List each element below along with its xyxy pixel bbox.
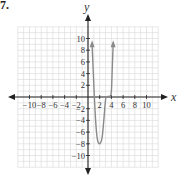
y-axis-down-arrow-icon (85, 168, 91, 175)
y-axis-up-arrow-icon (85, 14, 91, 21)
x-tick-label: 10 (142, 100, 151, 110)
y-tick-label: 10 (77, 34, 86, 44)
y-tick-label: 2 (81, 80, 85, 90)
y-tick-label: 6 (81, 57, 85, 67)
x-tick-label: −10 (23, 100, 36, 110)
x-tick-label: 8 (133, 100, 137, 110)
x-axis-right-arrow-icon (161, 94, 168, 100)
x-axis-left-arrow-icon (8, 94, 15, 100)
polynomial-graph: xy −10−8−6−4−2246810108642−2−4−6−8−10 (0, 0, 178, 176)
x-tick-label: 2 (98, 100, 102, 110)
y-tick-label: −2 (76, 104, 85, 114)
axes: xy (8, 0, 177, 175)
x-tick-label: 6 (121, 100, 125, 110)
polynomial-curve (92, 44, 113, 143)
y-tick-label: −4 (76, 115, 86, 125)
x-tick-label: 4 (109, 100, 114, 110)
x-tick-label: −6 (48, 100, 57, 110)
x-tick-label: −8 (37, 100, 46, 110)
x-axis-label: x (170, 90, 177, 104)
y-tick-label: −6 (76, 127, 85, 137)
y-axis-label: y (83, 0, 90, 14)
y-tick-label: −10 (72, 151, 85, 161)
y-tick-label: −8 (76, 139, 85, 149)
y-tick-label: 8 (81, 45, 85, 55)
x-tick-label: −4 (60, 100, 70, 110)
